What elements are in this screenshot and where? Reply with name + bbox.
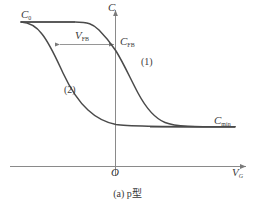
curve-1-label: (1) xyxy=(141,57,153,67)
cv-characteristic-figure: C0 C CFB Cmin VFB VG O (1) (2) (a) p型 xyxy=(0,0,255,207)
origin-label: O xyxy=(111,167,119,178)
x-axis-symbol: V xyxy=(232,166,239,178)
curve-2-label: (2) xyxy=(64,85,76,95)
c-oxide-subscript: 0 xyxy=(28,15,31,21)
y-axis-label: C xyxy=(108,2,115,13)
v-flatband-label: VFB xyxy=(75,30,89,41)
c-flatband-label: CFB xyxy=(120,36,135,47)
c-min-label: Cmin xyxy=(214,115,231,126)
v-flatband-symbol: V xyxy=(75,29,82,41)
c-oxide-label: C0 xyxy=(21,9,31,20)
x-axis-label: VG xyxy=(232,167,243,178)
cv-plot-svg xyxy=(0,0,255,207)
c-min-subscript: min xyxy=(221,121,230,127)
figure-caption: (a) p型 xyxy=(0,185,255,200)
c-flatband-subscript: FB xyxy=(127,42,134,48)
v-flatband-subscript: FB xyxy=(82,36,89,42)
x-axis-subscript: G xyxy=(239,173,243,179)
